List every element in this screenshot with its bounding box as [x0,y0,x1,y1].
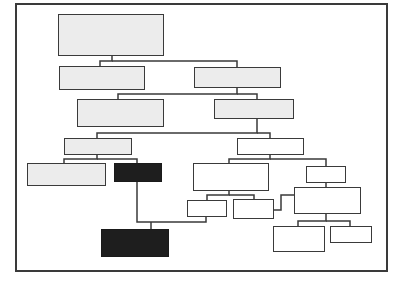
tree-node-l [187,200,227,217]
tree-node-k [306,166,346,183]
tree-node-f [64,138,132,155]
tree-node-o [101,229,169,257]
tree-node-j [193,163,269,191]
tree-node-q [330,226,372,243]
tree-node-a [58,14,164,56]
tree-node-p [273,226,325,252]
diagram-canvas [0,0,393,284]
tree-node-h [27,163,106,186]
tree-node-g [237,138,304,155]
tree-node-e [214,99,294,119]
tree-node-d [77,99,164,127]
tree-node-c [194,67,281,88]
tree-node-m [233,199,274,219]
tree-node-n [294,187,361,214]
tree-node-i [114,163,162,182]
tree-node-b [59,66,145,90]
